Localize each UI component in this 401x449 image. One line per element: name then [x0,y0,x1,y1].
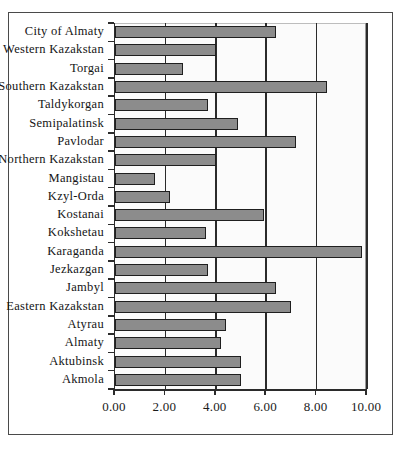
y-category-label: Taldykorgan [0,97,104,112]
x-tick-label: 10.00 [336,399,396,415]
y-category-label: Aktubinsk [0,354,104,369]
y-tick [108,114,114,116]
bar [115,227,206,239]
y-tick [108,260,114,262]
bar [115,337,221,349]
y-category-label: Northern Kazakstan [0,152,104,167]
y-tick [108,150,114,152]
y-tick [108,187,114,189]
bar [115,63,183,75]
bar-row [115,337,367,349]
bar [115,264,208,276]
y-category-label: Jambyl [0,280,104,295]
bar-row [115,26,367,38]
y-category-label: City of Almaty [0,24,104,39]
horizontal-bar-chart: 0.002.004.006.008.0010.00 City of Almaty… [9,13,392,434]
plot-area [114,23,366,389]
chart-figure-frame: 0.002.004.006.008.0010.00 City of Almaty… [8,12,393,435]
y-tick [108,169,114,171]
y-category-label: Eastern Kazakstan [0,299,104,314]
y-category-label: Western Kazakstan [0,42,104,57]
y-tick [108,388,114,390]
y-tick [108,278,114,280]
x-tick-0.00 [113,389,115,395]
bar [115,191,170,203]
y-tick [108,59,114,61]
y-tick [108,22,114,24]
y-tick [108,224,114,226]
bar-row [115,44,367,56]
bar [115,26,276,38]
bar [115,154,216,166]
bar [115,81,327,93]
y-category-label: Akmola [0,372,104,387]
y-category-label: Kokshetau [0,225,104,240]
x-tick-4.00 [214,389,216,395]
y-category-label: Semipalatinsk [0,116,104,131]
plot-top-edge [115,23,366,24]
bar [115,209,264,221]
y-category-label: Southern Kazakstan [0,79,104,94]
bar-row [115,374,367,386]
bar [115,99,208,111]
gridline-6.00 [265,23,267,389]
x-tick-2.00 [164,389,166,395]
bar [115,118,238,130]
y-tick [108,95,114,97]
bar-row [115,319,367,331]
bar-row [115,118,367,130]
bar-row [115,191,367,203]
y-tick [108,352,114,354]
y-category-label: Torgai [0,61,104,76]
y-category-label: Kzyl-Orda [0,189,104,204]
bar-row [115,63,367,75]
y-tick [108,205,114,207]
bar-row [115,282,367,294]
bar-row [115,227,367,239]
gridline-2.00 [165,23,167,389]
y-category-label: Jezkazgan [0,262,104,277]
gridline-8.00 [316,23,318,389]
bar [115,136,296,148]
bar [115,44,216,56]
bar [115,374,241,386]
bar-row [115,264,367,276]
bar-row [115,136,367,148]
x-tick-10.00 [365,389,367,395]
bar-row [115,173,367,185]
bar [115,246,362,258]
bar-row [115,301,367,313]
y-category-label: Karaganda [0,244,104,259]
bar-row [115,99,367,111]
y-tick [108,77,114,79]
y-category-label: Atyrau [0,317,104,332]
y-category-label: Mangistau [0,171,104,186]
gridline-4.00 [215,23,217,389]
bar-row [115,209,367,221]
bar [115,319,226,331]
y-tick [108,297,114,299]
x-tick-6.00 [264,389,266,395]
bar [115,356,241,368]
bar [115,282,276,294]
y-tick [108,132,114,134]
bar-row [115,246,367,258]
y-category-label: Pavlodar [0,134,104,149]
bar-row [115,356,367,368]
y-tick [108,333,114,335]
y-tick [108,315,114,317]
y-tick [108,370,114,372]
bar [115,301,291,313]
x-tick-8.00 [315,389,317,395]
y-tick [108,41,114,43]
y-category-label: Kostanai [0,207,104,222]
bar [115,173,155,185]
gridline-10.00 [366,23,368,389]
bar-row [115,154,367,166]
x-axis-line [114,389,366,391]
y-category-label: Almaty [0,335,104,350]
bar-row [115,81,367,93]
y-tick [108,242,114,244]
